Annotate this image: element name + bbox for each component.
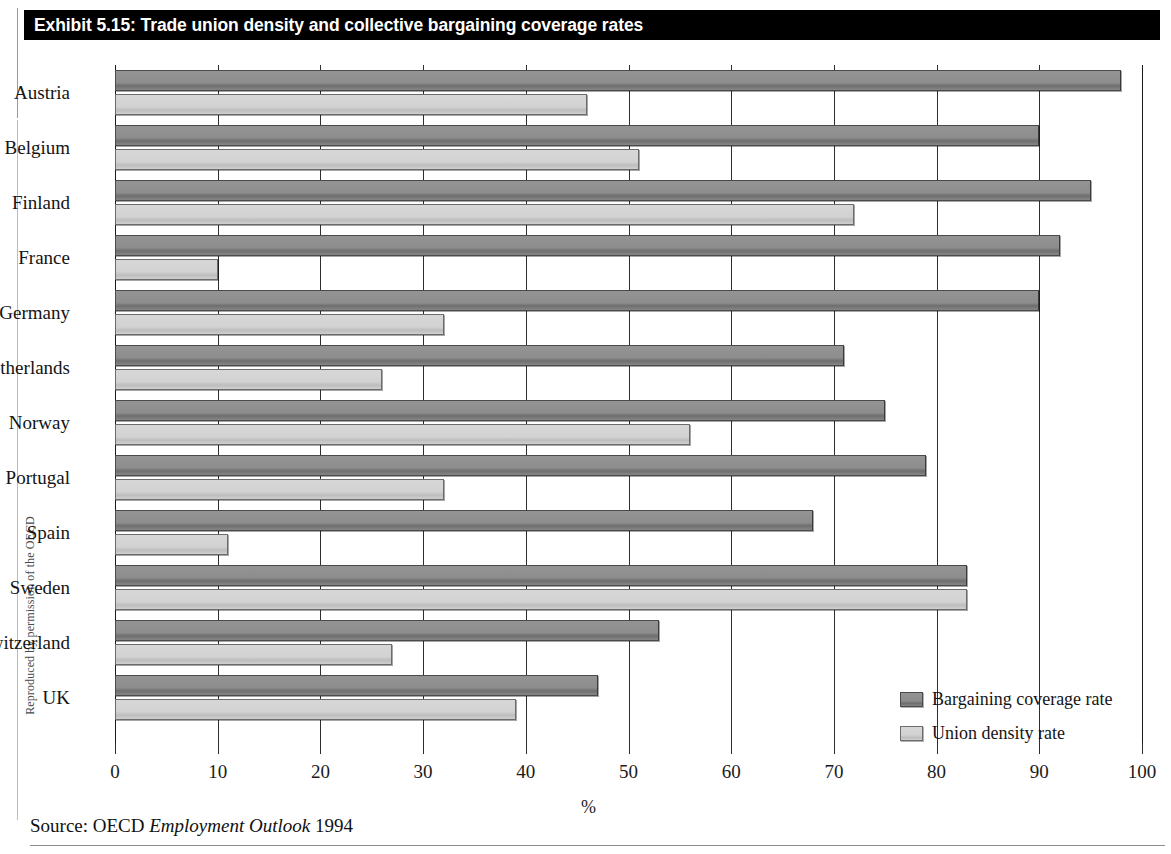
bar-row: Norway [115,397,1142,452]
exhibit-title-bar: Exhibit 5.15: Trade union density and co… [24,10,1160,40]
category-label-austria: Austria [14,82,70,104]
x-tick-label-90: 90 [1030,761,1049,783]
bar-row: Austria [115,67,1142,122]
source-caption: Source: OECD Employment Outlook 1994 [30,815,353,837]
category-label-uk: UK [43,687,70,709]
category-label-belgium: Belgium [5,137,70,159]
bar-spain-density [115,534,228,555]
bar-row: Finland [115,177,1142,232]
bar-row: France [115,232,1142,287]
category-label-sweden: Sweden [10,577,70,599]
legend-label-coverage: Bargaining coverage rate [932,689,1113,710]
bar-chart: AustriaBelgiumFinlandFranceGermanyNether… [0,55,1171,755]
x-tick-label-70: 70 [824,761,843,783]
bar-switzerland-coverage [115,620,659,641]
bar-uk-density [115,699,516,720]
legend-swatch-coverage-icon [900,692,923,707]
category-label-netherlands: Netherlands [0,357,70,379]
x-tick-60 [731,743,732,754]
x-tick-50 [629,743,630,754]
category-label-finland: Finland [12,192,70,214]
x-tick-label-0: 0 [110,761,120,783]
gridline-100 [1142,65,1143,743]
x-tick-70 [834,743,835,754]
x-tick-label-30: 30 [414,761,433,783]
bar-row: Belgium [115,122,1142,177]
x-tick-40 [526,743,527,754]
category-label-spain: Spain [27,522,70,544]
bar-austria-density [115,94,587,115]
bar-norway-density [115,424,690,445]
category-label-portugal: Portugal [6,467,70,489]
page-title: Exhibit 5.15: Trade union density and co… [34,15,643,36]
category-label-germany: Germany [0,302,70,324]
bar-sweden-density [115,589,967,610]
x-tick-label-60: 60 [722,761,741,783]
bar-norway-coverage [115,400,885,421]
x-tick-100 [1142,743,1143,754]
x-tick-10 [218,743,219,754]
page-bottom-rule [30,845,1165,846]
x-tick-label-80: 80 [927,761,946,783]
bar-row: Sweden [115,562,1142,617]
chart-legend: Bargaining coverage rate Union density r… [900,682,1113,750]
bar-row: Spain [115,507,1142,562]
bar-austria-coverage [115,70,1121,91]
source-prefix: Source: OECD [30,815,145,836]
bar-row: Switzerland [115,617,1142,672]
bar-germany-coverage [115,290,1039,311]
bar-spain-coverage [115,510,813,531]
x-tick-0 [115,743,116,754]
bar-finland-coverage [115,180,1091,201]
category-label-france: France [18,247,70,269]
legend-item-coverage: Bargaining coverage rate [900,682,1113,716]
x-tick-30 [423,743,424,754]
x-tick-label-20: 20 [311,761,330,783]
legend-item-density: Union density rate [900,716,1113,750]
bar-france-density [115,259,218,280]
category-label-norway: Norway [9,412,70,434]
bar-finland-density [115,204,854,225]
source-year: 1994 [315,815,353,836]
x-tick-label-50: 50 [619,761,638,783]
bar-belgium-coverage [115,125,1039,146]
source-publication: Employment Outlook [149,815,310,836]
bar-belgium-density [115,149,639,170]
bar-row: Netherlands [115,342,1142,397]
bar-switzerland-density [115,644,392,665]
bar-uk-coverage [115,675,598,696]
legend-swatch-density-icon [900,726,923,741]
x-tick-20 [320,743,321,754]
legend-label-density: Union density rate [932,723,1065,744]
bar-netherlands-density [115,369,382,390]
bar-netherlands-coverage [115,345,844,366]
bar-portugal-coverage [115,455,926,476]
bar-germany-density [115,314,444,335]
bar-portugal-density [115,479,444,500]
x-tick-label-10: 10 [208,761,227,783]
x-tick-label-100: 100 [1128,761,1157,783]
bar-france-coverage [115,235,1060,256]
bar-sweden-coverage [115,565,967,586]
bar-row: Portugal [115,452,1142,507]
bar-row: Germany [115,287,1142,342]
exhibit-page: Reproduced by permission of the OECD Exh… [0,0,1171,854]
plot-area: AustriaBelgiumFinlandFranceGermanyNether… [115,65,1142,743]
x-axis-title-text: % [581,797,596,817]
category-label-switzerland: Switzerland [0,632,70,654]
x-tick-label-40: 40 [516,761,535,783]
